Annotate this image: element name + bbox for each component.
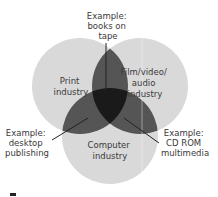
callout-cd-rom-multimedia: Example: CD ROM multimedia — [161, 128, 209, 158]
corner-mark — [10, 193, 16, 196]
computer-industry-label: Computer industry — [88, 140, 133, 161]
venn-diagram: Print industry Film/video/ audio industr… — [0, 0, 218, 197]
callout-desktop-publishing: Example: desktop publishing — [5, 128, 49, 158]
callout-books-on-tape: Example: books on tape — [87, 11, 129, 41]
